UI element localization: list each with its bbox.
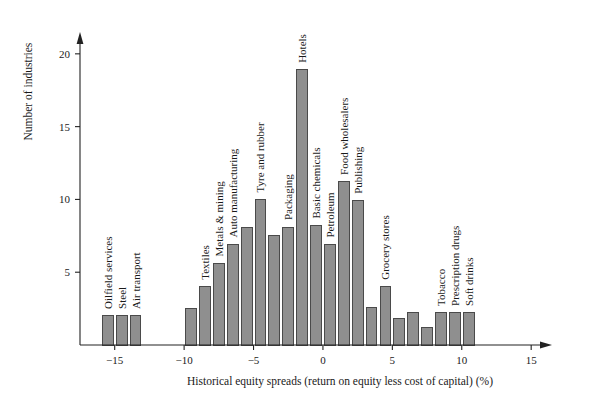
y-tick-label: 20 <box>59 48 71 60</box>
bar-label: Packaging <box>282 174 294 220</box>
bar <box>408 313 419 345</box>
bar <box>269 236 280 345</box>
x-tick-label: −10 <box>176 354 194 366</box>
bar-label: Grocery stores <box>379 215 391 279</box>
bar <box>311 226 322 345</box>
bar-label: Textiles <box>199 245 211 280</box>
bar-label: Oilfield services <box>102 236 114 308</box>
bar <box>130 316 141 345</box>
y-tick-label: 15 <box>59 121 71 133</box>
bar-label: Metals & mining <box>213 181 225 257</box>
bar-label: Tyre and rubber <box>254 122 266 192</box>
bar <box>324 245 335 345</box>
x-axis-title: Historical equity spreads (return on equ… <box>187 375 493 388</box>
bar <box>436 313 447 345</box>
bar-label: Tobacco <box>435 268 447 306</box>
bar <box>241 227 252 345</box>
x-tick-label: 15 <box>526 354 538 366</box>
bar <box>366 307 377 345</box>
bar-label: Air transport <box>130 252 142 309</box>
bar <box>283 227 294 345</box>
x-tick-label: 0 <box>320 354 326 366</box>
bar-label: Petroleum <box>324 192 336 238</box>
bar <box>255 199 266 345</box>
histogram-chart: −15−10−50510155101520 Oilfield servicesS… <box>0 0 592 401</box>
x-tick-label: −15 <box>106 354 124 366</box>
x-tick-label: −5 <box>248 354 260 366</box>
bar <box>213 263 224 345</box>
bar <box>449 313 460 345</box>
bar <box>394 319 405 345</box>
bar <box>186 309 197 345</box>
y-axis-arrow <box>77 32 84 44</box>
bar <box>422 328 433 345</box>
x-tick-label: 5 <box>390 354 396 366</box>
bar <box>352 201 363 345</box>
y-axis-title: Number of industries <box>22 42 34 140</box>
bar <box>200 287 211 345</box>
bar <box>463 313 474 345</box>
y-tick-label: 10 <box>59 193 71 205</box>
bar-label: Food wholesalers <box>338 98 350 175</box>
bar <box>116 316 127 345</box>
bar <box>297 70 308 345</box>
bar <box>227 245 238 345</box>
bar-label: Prescription drugs <box>449 226 461 306</box>
x-tick-label: 10 <box>456 354 468 366</box>
bar-label: Steel <box>116 287 128 309</box>
bar <box>380 287 391 345</box>
bar-label: Hotels <box>296 34 308 63</box>
bar-label: Auto manufacturing <box>227 148 239 237</box>
y-tick-label: 5 <box>65 266 71 278</box>
bar-label: Publishing <box>352 146 364 194</box>
bar <box>338 182 349 345</box>
bar <box>102 316 113 345</box>
bar-label: Soft drinks <box>463 257 475 306</box>
bar-label: Basic chemicals <box>310 147 322 218</box>
x-axis-arrow <box>540 342 552 349</box>
chart-page: −15−10−50510155101520 Oilfield servicesS… <box>0 0 592 401</box>
